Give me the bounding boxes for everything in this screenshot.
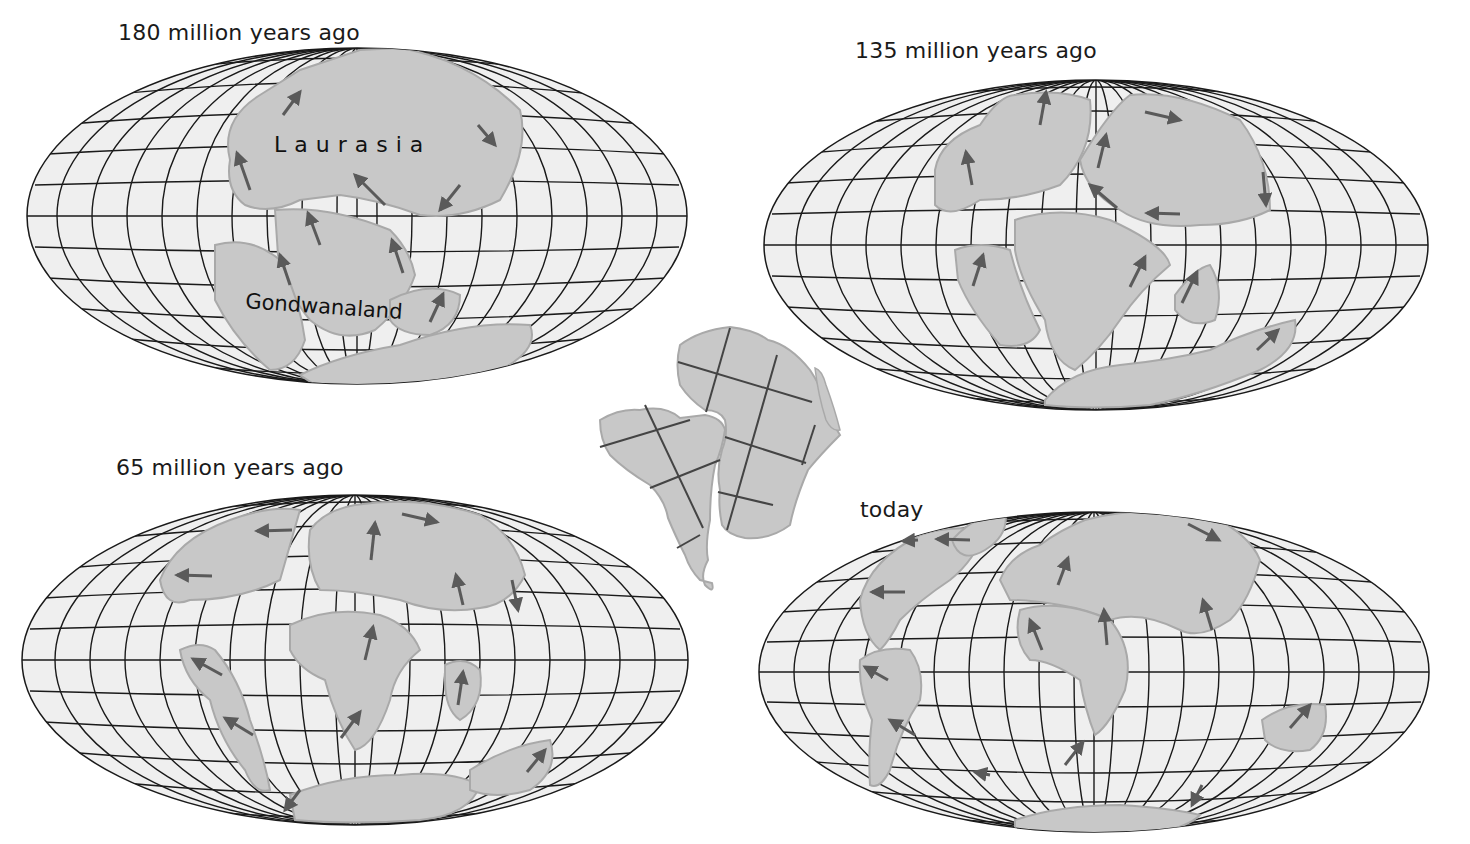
- drift-diagram: Laurasia Gondwanaland: [0, 0, 1470, 844]
- map-today: [759, 510, 1429, 840]
- inset-continental-fit: [600, 327, 840, 590]
- map-65-mya: [22, 495, 688, 825]
- map-135-mya: [764, 80, 1428, 410]
- label-laurasia: Laurasia: [274, 132, 431, 157]
- map-180-mya: Laurasia Gondwanaland: [27, 48, 687, 395]
